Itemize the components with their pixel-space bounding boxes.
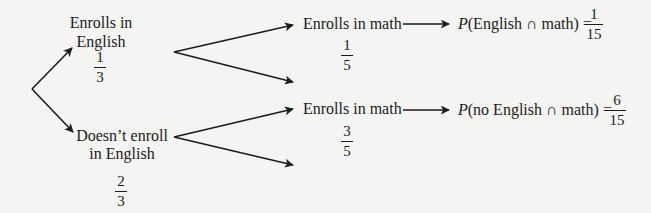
prob-math-given-no-english-denominator: 5: [343, 144, 351, 159]
result-english-math-numerator: 1: [590, 7, 598, 22]
prob-no-english-numerator: 2: [117, 174, 125, 189]
result-no-english-math-numerator: 6: [613, 93, 621, 108]
probability-tree-diagram: Enrolls in English 1 3 Doesn’t enroll in…: [0, 0, 651, 213]
branch-root-to-no-english-arrow: [32, 89, 73, 132]
result-no-english-math-value: 6 15: [608, 93, 626, 128]
fraction-bar: [608, 110, 626, 111]
fraction-bar: [585, 24, 603, 25]
prob-math-given-english: 1 5: [341, 38, 353, 73]
probability-symbol: P: [458, 101, 468, 118]
probability-symbol: P: [458, 15, 468, 32]
prob-english: 1 3: [94, 50, 106, 85]
prob-no-english: 2 3: [115, 174, 127, 209]
branch-english-to-math-arrow: [174, 25, 293, 52]
result-no-english-math-expr: (no English ∩ math) =: [468, 101, 612, 118]
result-no-english-math-expression: P(no English ∩ math) =: [458, 101, 612, 119]
result-english-math-denominator: 15: [587, 27, 602, 42]
node-no-english-label-line1: Doesn’t enroll: [76, 127, 168, 145]
result-english-math-expr: (English ∩ math) =: [468, 15, 592, 32]
branch-no-english-to-no-math-arrow: [174, 137, 293, 165]
prob-math-given-english-denominator: 5: [343, 58, 351, 73]
node-no-english-label-line2: in English: [89, 145, 154, 163]
fraction-bar: [341, 55, 353, 56]
node-english-label-line1: Enrolls in: [70, 14, 133, 32]
prob-math-given-english-numerator: 1: [343, 38, 351, 53]
prob-math-given-no-english-numerator: 3: [343, 124, 351, 139]
node-no-english-math-label: Enrolls in math: [303, 100, 402, 118]
branch-no-english-to-math-arrow: [174, 109, 293, 137]
result-english-math-value: 1 15: [585, 7, 603, 42]
prob-english-numerator: 1: [96, 50, 104, 65]
result-english-math-expression: P(English ∩ math) =: [458, 15, 592, 33]
fraction-bar: [94, 67, 106, 68]
prob-math-given-no-english: 3 5: [341, 124, 353, 159]
branch-root-to-english-arrow: [32, 48, 72, 89]
node-english-math-label: Enrolls in math: [303, 15, 402, 33]
prob-no-english-denominator: 3: [117, 194, 125, 209]
fraction-bar: [341, 141, 353, 142]
fraction-bar: [115, 191, 127, 192]
branch-english-to-no-math-arrow: [174, 52, 293, 82]
result-no-english-math-denominator: 15: [610, 113, 625, 128]
prob-english-denominator: 3: [96, 70, 104, 85]
